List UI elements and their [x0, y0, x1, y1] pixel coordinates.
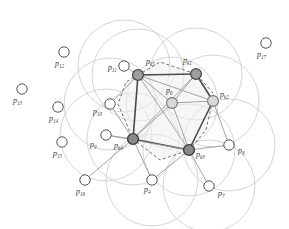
graph-node-k5[interactable] — [133, 70, 144, 81]
node-label-k2: pk2 — [219, 90, 229, 100]
graph-node-n7[interactable] — [204, 181, 214, 191]
graph-node-k2[interactable] — [208, 96, 219, 107]
node-label-n14: p14 — [48, 114, 59, 124]
graph-node-n17[interactable] — [261, 38, 271, 48]
node-label-n8: p8 — [237, 146, 245, 156]
node-label-k3: pk3 — [195, 150, 205, 160]
figure-canvas: pk1pk2pk3pk4pk5p6p4p7p8p9p10p11p12p13p14… — [0, 0, 289, 229]
node-label-n12: p12 — [54, 59, 65, 69]
graph-node-n12[interactable] — [59, 47, 69, 57]
graph-node-n9[interactable] — [101, 130, 111, 140]
graph-node-k3[interactable] — [184, 145, 195, 156]
graph-node-n15[interactable] — [57, 137, 67, 147]
node-label-n15: p15 — [52, 149, 63, 159]
graph-node-n11[interactable] — [119, 61, 129, 71]
node-label-k5: pk5 — [145, 57, 155, 67]
node-label-n10: p10 — [92, 107, 103, 117]
graph-node-k4[interactable] — [128, 134, 139, 145]
graph-edge — [138, 74, 196, 75]
graph-node-n13[interactable] — [17, 84, 27, 94]
graph-node-n4[interactable] — [147, 175, 157, 185]
node-label-n16: p16 — [75, 187, 86, 197]
node-label-n9: p9 — [89, 140, 97, 150]
geometric-diagram: pk1pk2pk3pk4pk5p6p4p7p8p9p10p11p12p13p14… — [0, 0, 289, 229]
graph-node-n8[interactable] — [224, 140, 234, 150]
graph-node-n10[interactable] — [105, 99, 115, 109]
node-label-k1: pk1 — [182, 56, 192, 66]
node-label-n11: p11 — [107, 63, 117, 73]
graph-node-k1[interactable] — [191, 69, 202, 80]
node-label-k4: pk4 — [113, 141, 123, 151]
node-label-n17: p17 — [256, 50, 267, 60]
graph-node-k6[interactable] — [167, 98, 178, 109]
node-label-n13: p13 — [12, 96, 23, 106]
node-label-n4: p4 — [143, 185, 151, 195]
graph-node-n16[interactable] — [80, 175, 90, 185]
graph-node-n14[interactable] — [53, 102, 63, 112]
